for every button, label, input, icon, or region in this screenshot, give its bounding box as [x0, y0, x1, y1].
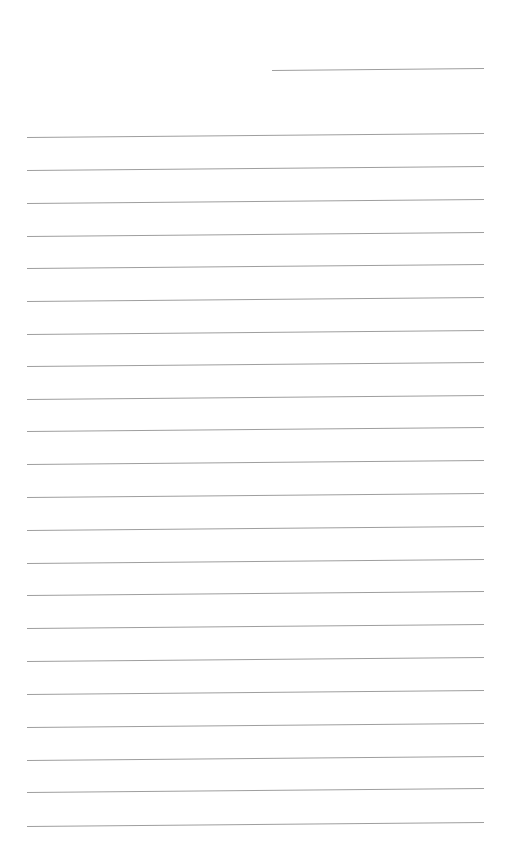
- ruled-line: [27, 690, 484, 695]
- ruled-line: [27, 133, 484, 138]
- ruled-line: [27, 657, 484, 662]
- header-write-line: [272, 68, 484, 71]
- ruled-line: [27, 756, 484, 761]
- ruled-line: [27, 493, 484, 498]
- ruled-line: [27, 166, 484, 171]
- ruled-line: [27, 723, 484, 728]
- ruled-line: [27, 297, 484, 302]
- ruled-line: [27, 427, 484, 432]
- ruled-line: [27, 395, 484, 400]
- lined-page: [0, 0, 519, 861]
- ruled-line: [27, 362, 484, 367]
- ruled-line: [27, 199, 484, 204]
- ruled-line: [27, 822, 484, 827]
- ruled-line: [27, 624, 484, 629]
- ruled-line: [27, 460, 484, 465]
- ruled-line: [27, 232, 484, 237]
- ruled-line: [27, 559, 484, 564]
- ruled-line: [27, 526, 484, 531]
- ruled-line: [27, 264, 484, 269]
- ruled-line: [27, 788, 484, 793]
- ruled-line: [27, 330, 484, 335]
- ruled-line: [27, 591, 484, 596]
